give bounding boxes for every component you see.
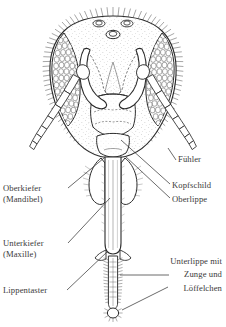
label-mandibel: (Mandibel)	[3, 194, 43, 205]
label-maxille: (Maxille)	[3, 249, 36, 260]
label-kopfschild: Kopfschild	[172, 180, 211, 191]
label-lippentaster: Lippentaster	[3, 285, 47, 296]
label-oberlippe: Oberlippe	[172, 194, 207, 205]
glossa	[101, 157, 124, 254]
label-unterlippe-line2: Zunge und	[184, 269, 222, 280]
label-loeffelchen: Löffelchen	[183, 283, 222, 294]
label-unterlippe-line1: Unterlippe mit	[170, 256, 222, 267]
flabellum	[107, 308, 118, 318]
label-oberkiefer: Oberkiefer	[3, 183, 41, 194]
label-unterkiefer: Unterkiefer	[3, 238, 44, 249]
label-fuehler: Fühler	[178, 154, 201, 165]
